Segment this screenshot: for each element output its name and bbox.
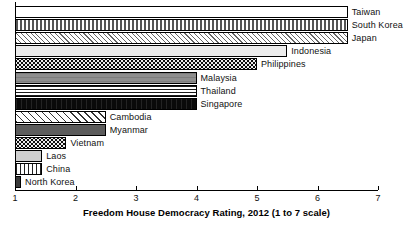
x-tick-label: 7	[375, 193, 380, 204]
bar-thailand	[15, 85, 197, 97]
bar-label-china: China	[42, 164, 70, 174]
bar-row: Indonesia	[15, 45, 331, 57]
x-tick-label: 6	[315, 193, 320, 204]
bar-label-thailand: Thailand	[197, 86, 236, 96]
bar-label-south-korea: South Korea	[348, 20, 403, 30]
bar-laos	[15, 150, 42, 162]
x-tick-label: 2	[73, 193, 78, 204]
x-axis: 1234567 Freedom House Democracy Rating, …	[0, 190, 413, 227]
bar-row: Singapore	[15, 98, 242, 110]
x-axis-line	[15, 190, 378, 191]
bar-label-cambodia: Cambodia	[106, 112, 152, 122]
bar-philippines	[15, 58, 257, 70]
bar-label-japan: Japan	[348, 33, 377, 43]
x-tick-mark	[136, 186, 137, 190]
bar-malaysia	[15, 72, 197, 84]
bar-row: Laos	[15, 150, 66, 162]
x-tick-mark	[76, 186, 77, 190]
bar-label-singapore: Singapore	[197, 99, 243, 109]
bar-row: Taiwan	[15, 6, 380, 18]
bar-south-korea	[15, 19, 348, 31]
bar-row: Vietnam	[15, 137, 104, 149]
bar-myanmar	[15, 124, 106, 136]
x-tick-label: 3	[133, 193, 138, 204]
democracy-rating-bar-chart: TaiwanSouth KoreaJapanIndonesiaPhilippin…	[0, 0, 413, 227]
bar-label-malaysia: Malaysia	[197, 73, 237, 83]
x-axis-title: Freedom House Democracy Rating, 2012 (1 …	[0, 207, 413, 218]
bar-taiwan	[15, 6, 348, 18]
x-tick-mark	[257, 186, 258, 190]
bar-row: Japan	[15, 32, 377, 44]
bar-label-philippines: Philippines	[257, 59, 306, 69]
bar-japan	[15, 32, 348, 44]
x-tick-label: 4	[194, 193, 199, 204]
bar-label-north-korea: North Korea	[21, 177, 75, 187]
bar-row: North Korea	[15, 176, 75, 188]
x-tick-mark	[197, 186, 198, 190]
x-tick-mark	[318, 186, 319, 190]
bar-row: Thailand	[15, 85, 236, 97]
bar-label-indonesia: Indonesia	[287, 46, 331, 56]
bar-row: South Korea	[15, 19, 403, 31]
bar-vietnam	[15, 137, 66, 149]
bar-cambodia	[15, 111, 106, 123]
bar-label-laos: Laos	[42, 151, 66, 161]
bar-row: Cambodia	[15, 111, 152, 123]
bar-china	[15, 163, 42, 175]
bar-singapore	[15, 98, 197, 110]
bar-row: Philippines	[15, 58, 306, 70]
bar-label-vietnam: Vietnam	[66, 138, 104, 148]
bar-row: Myanmar	[15, 124, 148, 136]
bar-label-myanmar: Myanmar	[106, 125, 148, 135]
bar-indonesia	[15, 45, 287, 57]
bar-label-taiwan: Taiwan	[348, 7, 381, 17]
bar-row: China	[15, 163, 70, 175]
plot-area: TaiwanSouth KoreaJapanIndonesiaPhilippin…	[0, 0, 413, 190]
x-tick-label: 1	[12, 193, 17, 204]
x-tick-mark	[15, 186, 16, 190]
x-tick-label: 5	[254, 193, 259, 204]
bar-row: Malaysia	[15, 72, 237, 84]
x-tick-mark	[378, 186, 379, 190]
